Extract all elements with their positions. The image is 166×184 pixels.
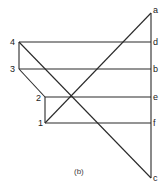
label-f: f (153, 118, 156, 128)
label-a: a (153, 5, 158, 15)
label-c: c (153, 173, 158, 183)
label-2: 2 (36, 93, 41, 103)
label-1: 1 (38, 118, 43, 128)
label-e: e (153, 92, 158, 102)
label-3: 3 (10, 64, 15, 74)
figure-caption: (b) (74, 167, 84, 176)
label-4: 4 (10, 37, 15, 47)
line-4-c (19, 42, 151, 178)
label-d: d (153, 37, 158, 47)
line-1-a (45, 13, 151, 123)
label-b: b (153, 64, 158, 74)
force-polygon-diagram: 4 3 2 1 a d b e f c (b) (0, 0, 166, 184)
line-3-2 (19, 69, 45, 97)
